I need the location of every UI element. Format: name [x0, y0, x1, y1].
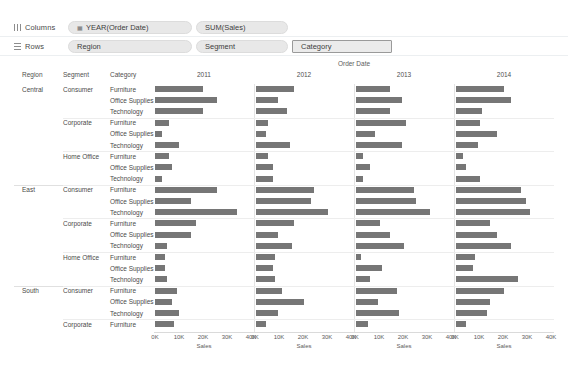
- bar[interactable]: [155, 209, 237, 215]
- row-header-segment[interactable]: Consumer: [63, 287, 93, 295]
- row-header-category[interactable]: Technology: [110, 175, 143, 183]
- bar[interactable]: [356, 243, 404, 249]
- bar[interactable]: [356, 153, 363, 159]
- bar[interactable]: [356, 131, 375, 137]
- row-header-segment[interactable]: Corporate: [63, 321, 92, 329]
- row-header-category[interactable]: Furniture: [110, 186, 136, 194]
- bar[interactable]: [356, 220, 380, 226]
- row-header-segment[interactable]: Corporate: [63, 220, 92, 228]
- row-header-category[interactable]: Technology: [110, 310, 143, 318]
- bar[interactable]: [256, 321, 266, 327]
- bar[interactable]: [155, 142, 179, 148]
- bar[interactable]: [456, 243, 511, 249]
- bar[interactable]: [155, 198, 191, 204]
- row-header-category[interactable]: Furniture: [110, 254, 136, 262]
- bar[interactable]: [456, 288, 504, 294]
- bar[interactable]: [256, 108, 287, 114]
- row-header-category[interactable]: Office Supplies: [110, 97, 154, 105]
- bar[interactable]: [155, 86, 203, 92]
- bar[interactable]: [155, 321, 174, 327]
- bar[interactable]: [155, 131, 162, 137]
- bar[interactable]: [356, 198, 416, 204]
- bar[interactable]: [155, 97, 217, 103]
- bar[interactable]: [256, 265, 273, 271]
- bar[interactable]: [356, 97, 402, 103]
- column-header-2013[interactable]: 2013: [354, 71, 454, 82]
- bar[interactable]: [256, 187, 314, 193]
- bar[interactable]: [456, 265, 473, 271]
- bar[interactable]: [155, 265, 165, 271]
- bar[interactable]: [256, 299, 304, 305]
- pill-year-order-date[interactable]: ▦ YEAR(Order Date): [68, 21, 192, 34]
- bar[interactable]: [155, 299, 172, 305]
- bar[interactable]: [256, 288, 282, 294]
- pill-category[interactable]: Category: [292, 40, 392, 53]
- bar[interactable]: [256, 198, 311, 204]
- bar[interactable]: [256, 310, 278, 316]
- bar[interactable]: [456, 153, 463, 159]
- bar[interactable]: [356, 108, 390, 114]
- row-header-segment[interactable]: Home Office: [63, 254, 99, 262]
- bar[interactable]: [456, 120, 480, 126]
- row-header-category[interactable]: Furniture: [110, 153, 136, 161]
- bar[interactable]: [456, 254, 475, 260]
- bar[interactable]: [356, 265, 382, 271]
- bar[interactable]: [155, 243, 167, 249]
- bar[interactable]: [256, 131, 266, 137]
- bar[interactable]: [456, 108, 482, 114]
- bar[interactable]: [155, 232, 191, 238]
- bar[interactable]: [256, 86, 294, 92]
- bar[interactable]: [256, 232, 278, 238]
- bar[interactable]: [456, 131, 497, 137]
- bar[interactable]: [356, 164, 370, 170]
- rows-shelf[interactable]: Rows Region Segment Category: [0, 37, 568, 56]
- bar[interactable]: [256, 153, 268, 159]
- bar[interactable]: [256, 120, 268, 126]
- bar[interactable]: [155, 220, 196, 226]
- bar[interactable]: [356, 288, 397, 294]
- bar[interactable]: [155, 153, 169, 159]
- bar[interactable]: [256, 243, 292, 249]
- bar[interactable]: [155, 276, 167, 282]
- bar[interactable]: [456, 220, 490, 226]
- row-header-category[interactable]: Office Supplies: [110, 231, 154, 239]
- bar[interactable]: [456, 299, 490, 305]
- bar[interactable]: [155, 108, 203, 114]
- bar[interactable]: [356, 176, 363, 182]
- pill-sum-sales[interactable]: SUM(Sales): [196, 21, 288, 34]
- bar[interactable]: [356, 254, 361, 260]
- bar[interactable]: [456, 232, 497, 238]
- bar[interactable]: [155, 310, 179, 316]
- bar[interactable]: [256, 142, 290, 148]
- bar[interactable]: [456, 198, 526, 204]
- row-header-segment[interactable]: Home Office: [63, 153, 99, 161]
- bar[interactable]: [356, 321, 368, 327]
- pill-segment[interactable]: Segment: [196, 40, 288, 53]
- row-header-category[interactable]: Technology: [110, 108, 143, 116]
- row-header-category[interactable]: Technology: [110, 276, 143, 284]
- row-header-category[interactable]: Furniture: [110, 287, 136, 295]
- bar[interactable]: [356, 299, 378, 305]
- row-header-segment[interactable]: Consumer: [63, 186, 93, 194]
- bar[interactable]: [456, 176, 480, 182]
- bar[interactable]: [256, 276, 275, 282]
- bar[interactable]: [256, 220, 294, 226]
- row-header-segment[interactable]: Consumer: [63, 86, 93, 94]
- bar[interactable]: [356, 86, 390, 92]
- bar[interactable]: [256, 209, 328, 215]
- row-header-segment[interactable]: Corporate: [63, 119, 92, 127]
- bar[interactable]: [356, 310, 399, 316]
- bar[interactable]: [456, 310, 487, 316]
- bar[interactable]: [456, 142, 478, 148]
- columns-shelf[interactable]: Columns ▦ YEAR(Order Date) SUM(Sales): [0, 18, 568, 37]
- bar[interactable]: [256, 164, 273, 170]
- bar[interactable]: [256, 97, 278, 103]
- bar[interactable]: [456, 97, 511, 103]
- bar[interactable]: [456, 321, 466, 327]
- row-header-category[interactable]: Furniture: [110, 119, 136, 127]
- bar[interactable]: [155, 176, 162, 182]
- bar[interactable]: [456, 209, 530, 215]
- bar[interactable]: [356, 187, 414, 193]
- row-header-category[interactable]: Technology: [110, 242, 143, 250]
- bar[interactable]: [155, 288, 177, 294]
